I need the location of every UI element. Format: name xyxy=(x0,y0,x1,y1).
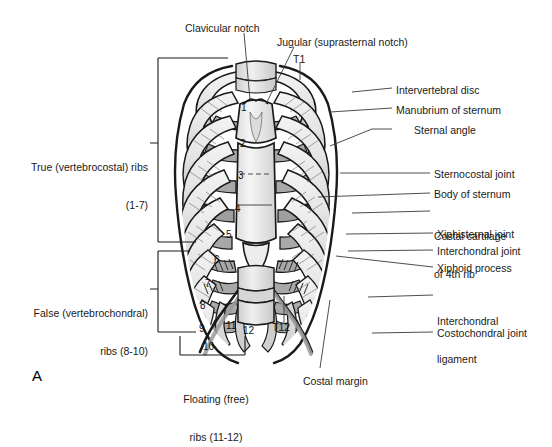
label-interchondral-joint: Interchondral joint xyxy=(437,245,520,258)
rib-number-7: 7 xyxy=(205,278,211,291)
rib-number-2: 2 xyxy=(240,138,246,151)
leader-intervertebral-disc xyxy=(352,88,392,92)
vertebra-t1 xyxy=(236,61,276,93)
leader-manubrium xyxy=(330,108,392,112)
rib-number-11: 11 xyxy=(226,320,236,333)
leader-body-of-sternum xyxy=(318,193,430,197)
label-floating-ribs-line2: ribs (11-12) xyxy=(168,431,264,444)
leader-sternal-angle xyxy=(330,129,392,146)
leader-costal-cartilage xyxy=(352,211,430,213)
label-manubrium-of-sternum: Manubrium of sternum xyxy=(396,104,501,117)
rib-number-12: 12 xyxy=(243,325,254,338)
label-t1-vertebra: T1 xyxy=(293,53,305,66)
label-true-ribs-line1: True (vertebrocostal) ribs xyxy=(18,161,148,174)
label-body-of-sternum: Body of sternum xyxy=(434,188,510,201)
rib-number-1: 1 xyxy=(241,102,247,115)
label-t12-vertebra: T12 xyxy=(272,321,290,334)
label-false-ribs-line1: False (vertebrochondral) xyxy=(14,307,148,320)
leader-xiphisternal-joint xyxy=(346,233,433,234)
sternal-body xyxy=(236,143,276,243)
label-floating-ribs: Floating (free) ribs (11-12) xyxy=(168,368,264,447)
rib-number-4: 4 xyxy=(235,203,241,216)
vertebra-t12 xyxy=(238,266,274,326)
label-costal-margin: Costal margin xyxy=(303,375,368,388)
rib-number-3: 3 xyxy=(238,170,244,183)
leader-xiphoid-process xyxy=(336,256,433,267)
label-true-ribs-line2: (1-7) xyxy=(18,199,148,212)
label-false-ribs-line2: ribs (8-10) xyxy=(14,345,148,358)
label-xiphisternal-joint: Xiphisternal joint xyxy=(437,228,514,241)
rib-number-6: 6 xyxy=(214,254,220,267)
label-intervertebral-disc: Intervertebral disc xyxy=(396,84,479,97)
leader-interchondral-joint xyxy=(348,250,433,251)
label-interchondral-ligament-line1: Interchondral xyxy=(437,315,498,328)
label-sternal-angle: Sternal angle xyxy=(414,124,476,137)
leader-interchondral-lig xyxy=(368,295,433,297)
rib-number-5: 5 xyxy=(226,229,232,242)
sternum xyxy=(236,100,276,276)
leader-costal-margin xyxy=(320,300,330,368)
label-interchondral-ligament: Interchondral ligament xyxy=(437,290,498,390)
rib-number-9: 9 xyxy=(199,323,205,336)
label-sternocostal-joint: Sternocostal joint xyxy=(434,168,515,181)
rib-number-8: 8 xyxy=(200,300,206,313)
panel-letter-a: A xyxy=(32,367,42,384)
label-costochondral-joint: Costochondral joint xyxy=(437,327,527,340)
label-interchondral-ligament-line2: ligament xyxy=(437,353,498,366)
label-clavicular-notch: Clavicular notch xyxy=(185,22,260,35)
rib-number-10: 10 xyxy=(203,341,214,354)
leader-costochondral-joint xyxy=(372,332,433,333)
label-floating-ribs-line1: Floating (free) xyxy=(168,393,264,406)
label-true-ribs: True (vertebrocostal) ribs (1-7) xyxy=(18,136,148,236)
label-jugular-notch: Jugular (suprasternal notch) xyxy=(277,36,408,49)
label-xiphoid-process: Xiphoid process xyxy=(437,262,512,275)
